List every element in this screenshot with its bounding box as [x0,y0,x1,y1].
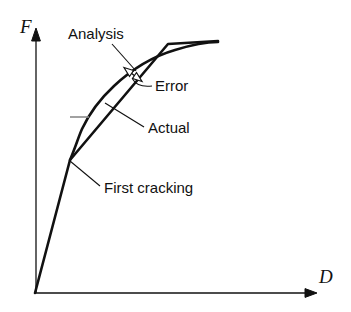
figure-canvas: F D Analysis E [0,0,351,312]
first-cracking-leader-line [70,161,100,186]
x-axis-label: D [318,266,333,287]
analysis-curve [35,41,218,293]
y-axis-arrowhead [32,28,41,41]
actual-leader-line [105,103,144,127]
force-displacement-figure: F D Analysis E [0,0,351,312]
curves-group [35,41,218,293]
y-axis-label: F [19,16,32,37]
annotation-label-first-cracking: First cracking [104,179,193,196]
annotation-label-error: Error [155,77,188,94]
actual-curve [70,42,218,160]
annotation-label-analysis: Analysis [68,25,124,42]
axes-group: F D [19,16,333,297]
x-axis-arrowhead [305,289,317,298]
annotation-label-actual: Actual [148,119,190,136]
error-leader-line [133,79,153,86]
